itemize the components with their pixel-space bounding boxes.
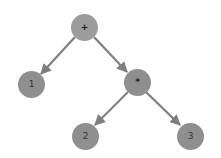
expression-tree-diagram: + 1 * 2 3 [0,0,221,158]
node-label-plus: + [81,23,89,32]
node-three: 3 [177,123,204,150]
edge-plus-to-one [41,37,75,74]
node-two: 2 [72,123,99,150]
node-label-two: 2 [83,132,89,141]
node-label-three: 3 [188,132,194,141]
node-plus: + [71,14,98,41]
node-times: * [124,69,151,96]
node-label-one: 1 [29,80,35,89]
edge-times-to-two [95,92,128,125]
node-one: 1 [18,71,45,98]
edge-plus-to-times [94,37,127,72]
edge-times-to-three [146,92,180,125]
node-label-times: * [135,78,140,87]
